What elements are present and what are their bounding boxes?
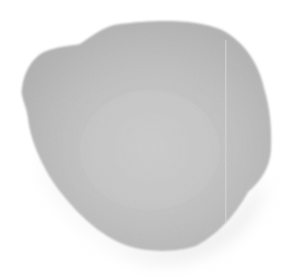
vertical-streak [225,40,227,240]
blob-texture [0,0,297,277]
blob-illustration [0,0,297,277]
photo-canvas: gray irregular blob [0,0,297,277]
